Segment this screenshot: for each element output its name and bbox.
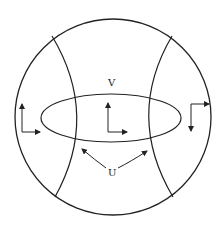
u-arrow-left <box>82 149 106 168</box>
u-arrow-right <box>118 151 147 168</box>
left-curve <box>52 36 77 197</box>
left-frame-icon <box>20 104 40 132</box>
right-frame-icon <box>189 104 209 131</box>
outer-circle <box>15 19 211 215</box>
label-v: V <box>108 77 115 88</box>
center-frame-icon <box>108 103 127 132</box>
right-curve <box>149 36 173 197</box>
diagram-canvas <box>0 0 223 230</box>
ellipse-v <box>41 94 181 142</box>
label-u: U <box>108 167 116 178</box>
